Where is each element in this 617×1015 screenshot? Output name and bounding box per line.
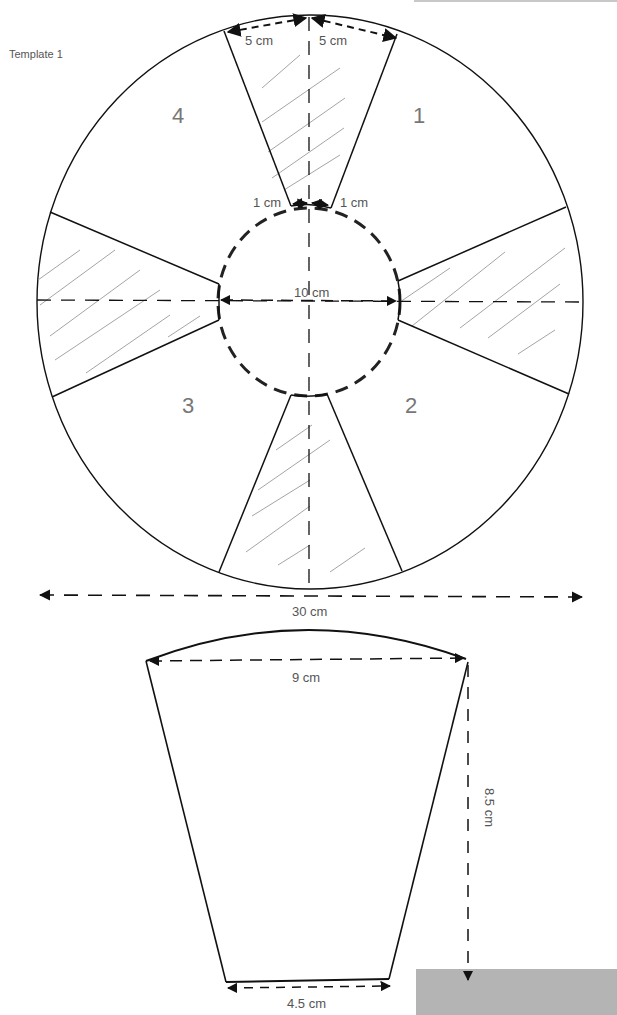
dim-inner-right: 1 cm: [340, 195, 368, 210]
hatch-lines: [38, 55, 565, 572]
dim-inner-left: 1 cm: [253, 195, 281, 210]
dim-outer-diameter: 30 cm: [292, 604, 327, 619]
segment-label-3: 3: [182, 393, 194, 419]
dim-trap-bottom: 4.5 cm: [287, 996, 326, 1011]
dim-trap-height: 8.5 cm: [482, 788, 497, 827]
dim-inner-diameter: 10 cm: [294, 285, 329, 300]
segment-label-2: 2: [405, 393, 417, 419]
dim-trap-top: 9 cm: [292, 670, 320, 685]
segment-label-1: 1: [413, 103, 425, 129]
segment-label-4: 4: [172, 103, 184, 129]
template-title: Template 1: [9, 48, 63, 60]
template-diagram: [0, 0, 617, 1015]
dim-top-right-arc: 5 cm: [319, 33, 347, 48]
dim-top-left-arc: 5 cm: [245, 33, 273, 48]
